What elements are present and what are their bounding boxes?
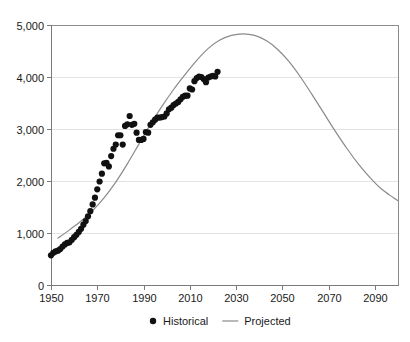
- historical-data-point: [120, 142, 126, 148]
- x-tick-label-2070: 2070: [317, 292, 341, 304]
- historical-data-point: [189, 86, 195, 92]
- historical-data-point: [133, 130, 139, 136]
- grid-lines: [51, 26, 398, 234]
- historical-data-point: [127, 113, 133, 119]
- historical-data-point: [131, 121, 137, 127]
- historical-data-point: [106, 163, 112, 169]
- projected-series-line: [58, 34, 398, 238]
- x-tick-label-2050: 2050: [270, 292, 294, 304]
- plot-frame: [51, 26, 399, 286]
- historical-data-point: [99, 171, 105, 177]
- legend-marker-dot: [150, 318, 156, 324]
- historical-data-point: [113, 142, 119, 148]
- historical-data-point: [184, 93, 190, 99]
- x-tick-label-1990: 1990: [132, 292, 156, 304]
- projected-curve: [58, 34, 398, 238]
- x-tick-label-2010: 2010: [178, 292, 202, 304]
- historical-data-point: [108, 153, 114, 159]
- x-tick-label-2090: 2090: [363, 292, 387, 304]
- y-tick-label-3000: 3,000: [16, 124, 44, 136]
- historical-data-point: [87, 208, 93, 214]
- x-tick-label-1970: 1970: [85, 292, 109, 304]
- legend-label-projected: Projected: [244, 315, 290, 327]
- plot-border: [51, 26, 399, 286]
- y-tick-label-2000: 2,000: [16, 176, 44, 188]
- y-tick-label-5000: 5,000: [16, 20, 44, 32]
- chart-container: 01,0002,0003,0004,0005,000 1950197019902…: [0, 0, 410, 342]
- historical-data-point: [140, 136, 146, 142]
- y-axis: 01,0002,0003,0004,0005,000: [16, 20, 51, 292]
- y-tick-label-4000: 4,000: [16, 72, 44, 84]
- historical-data-point: [90, 201, 96, 207]
- chart-legend: HistoricalProjected: [150, 315, 291, 327]
- x-tick-label-1950: 1950: [39, 292, 63, 304]
- historical-data-point: [214, 69, 220, 75]
- historical-series-points: [48, 69, 221, 259]
- legend-label-historical: Historical: [163, 315, 208, 327]
- y-tick-label-1000: 1,000: [16, 228, 44, 240]
- x-axis: 19501970199020102030205020702090: [39, 286, 398, 305]
- historical-data-point: [145, 130, 151, 136]
- historical-data-point: [92, 195, 98, 201]
- hubbert-production-chart: 01,0002,0003,0004,0005,000 1950197019902…: [0, 0, 410, 342]
- historical-data-point: [94, 186, 100, 192]
- historical-data-point: [96, 178, 102, 184]
- x-tick-label-2030: 2030: [224, 292, 248, 304]
- historical-data-point: [117, 132, 123, 138]
- y-tick-label-0: 0: [38, 280, 44, 292]
